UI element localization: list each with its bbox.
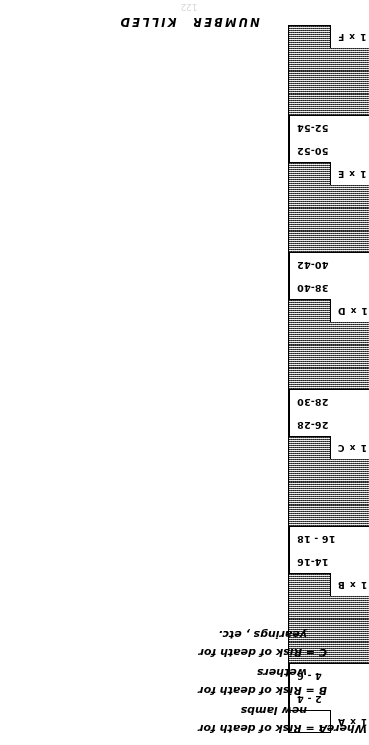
histogram-bar bbox=[289, 459, 369, 482]
bin-row: 26-28 bbox=[0, 413, 369, 436]
histogram-bar bbox=[289, 208, 369, 231]
bin-row: 28-30 bbox=[0, 390, 369, 413]
bin-label: 50-52 bbox=[297, 139, 367, 162]
histogram-bar bbox=[289, 345, 369, 368]
bin-label: 26-28 bbox=[297, 413, 367, 436]
legend-entry-b-line2: wethers bbox=[227, 664, 307, 682]
legend-entry-a-line1: A = Risk of death for bbox=[227, 720, 327, 738]
bin-row: 20-224 x C bbox=[0, 482, 369, 505]
histogram-bar bbox=[289, 596, 369, 619]
bin-row: 54-563 x F bbox=[0, 94, 369, 117]
bin-row: 36-381 x D bbox=[0, 299, 369, 322]
bin-row: 16 - 18 bbox=[0, 527, 369, 550]
bin-row: 42-443 x E bbox=[0, 231, 369, 254]
legend-entry-c: C = Risk of death for yearings , etc. bbox=[227, 626, 327, 661]
page-number: 122 bbox=[69, 3, 309, 12]
histogram-bar bbox=[289, 573, 331, 596]
bin-row: 10-124 x B bbox=[0, 596, 369, 619]
histogram-bar bbox=[289, 185, 369, 208]
histogram-bar bbox=[289, 482, 369, 505]
bar-annotation: 1 x E bbox=[337, 162, 369, 185]
histogram-bar bbox=[289, 368, 369, 391]
bin-label: 38-40 bbox=[297, 276, 367, 299]
bin-row: 58-604 x F bbox=[0, 48, 369, 71]
bin-row: 48-501 x E bbox=[0, 162, 369, 185]
histogram-bar bbox=[289, 231, 369, 254]
histogram-bar bbox=[289, 299, 331, 322]
histogram-bar bbox=[289, 436, 331, 459]
legend-entry-c-line1: C = Risk of death for bbox=[227, 644, 327, 662]
histogram-bar bbox=[289, 322, 369, 345]
bin-row: 56-584 x F bbox=[0, 71, 369, 94]
bin-row: 12-141 x B bbox=[0, 573, 369, 596]
histogram-bar bbox=[289, 71, 369, 94]
legend-entry-a: A = Risk of death for new lambs bbox=[227, 702, 327, 737]
bin-row: 44-464 x E bbox=[0, 208, 369, 231]
legend-entry-b-line1: B = Risk of death for bbox=[227, 682, 327, 700]
legend-entry-b: B = Risk of death for wethers bbox=[227, 664, 327, 699]
axis-title: NUMBER KILLED bbox=[69, 15, 309, 29]
bin-label: 16 - 18 bbox=[297, 527, 367, 550]
bin-row: 32-344 x D bbox=[0, 345, 369, 368]
bin-row: 46-484 x E bbox=[0, 185, 369, 208]
bin-row: 52-54 bbox=[0, 116, 369, 139]
bin-row: 18 - 203 x C bbox=[0, 505, 369, 528]
histogram-plot: 0 - 21 x A2 - 44 - 66 - 83 x B8 - 104 x … bbox=[0, 0, 369, 745]
bin-row: 38-40 bbox=[0, 276, 369, 299]
bin-row: 22-244 x C bbox=[0, 459, 369, 482]
bin-row: 40-42 bbox=[0, 253, 369, 276]
legend-entry-c-line2: yearings , etc. bbox=[227, 626, 307, 644]
bin-label: 28-30 bbox=[297, 390, 367, 413]
bin-row: 30-323 x D bbox=[0, 368, 369, 391]
bar-annotation: 1 x D bbox=[337, 299, 369, 322]
figure-root: 0 - 21 x A2 - 44 - 66 - 83 x B8 - 104 x … bbox=[0, 0, 369, 745]
histogram-bar bbox=[289, 94, 369, 117]
histogram-bar bbox=[289, 162, 331, 185]
bar-annotation: 1 x F bbox=[337, 25, 369, 48]
bin-label: 40-42 bbox=[297, 253, 367, 276]
bin-row: 24-261 x C bbox=[0, 436, 369, 459]
bar-annotation: 1 x B bbox=[337, 573, 369, 596]
legend-entry-a-line2: new lambs bbox=[227, 702, 307, 720]
bar-annotation: 1 x C bbox=[337, 436, 369, 459]
bin-label: 14-16 bbox=[297, 550, 367, 573]
bin-row: 14-16 bbox=[0, 550, 369, 573]
bin-row: 50-52 bbox=[0, 139, 369, 162]
histogram-bar bbox=[289, 48, 369, 71]
bin-row: 34-364 x D bbox=[0, 322, 369, 345]
bin-label: 52-54 bbox=[297, 116, 367, 139]
histogram-bar bbox=[289, 505, 369, 528]
